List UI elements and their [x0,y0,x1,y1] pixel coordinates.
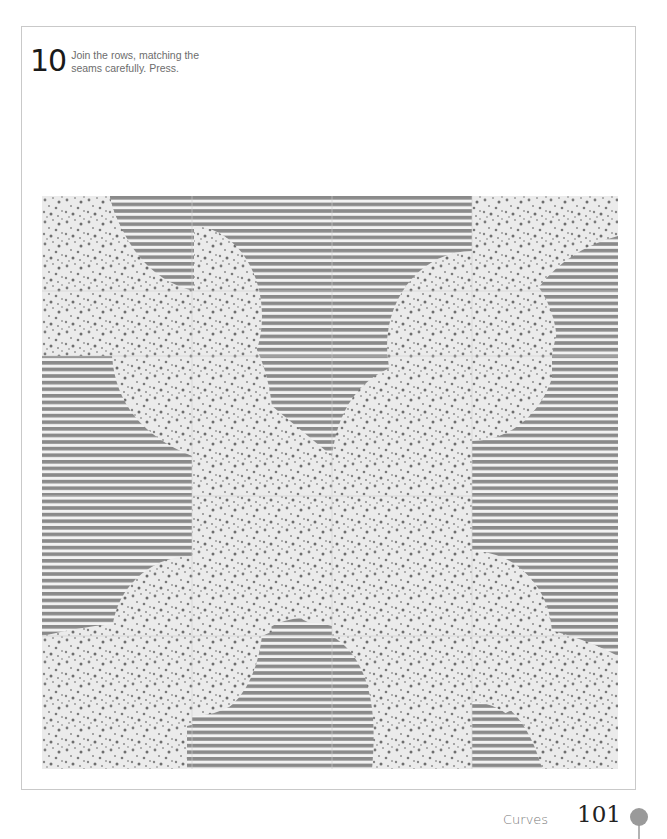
step-text: Join the rows, matching the seams carefu… [71,49,211,75]
quilt-block-photo [42,196,618,769]
flower-icon [628,807,650,839]
section-title: Curves [503,812,548,827]
page-number: 101 [577,801,621,827]
step-instruction: 10 Join the rows, matching the seams car… [30,48,211,75]
step-number: 10 [30,48,66,74]
